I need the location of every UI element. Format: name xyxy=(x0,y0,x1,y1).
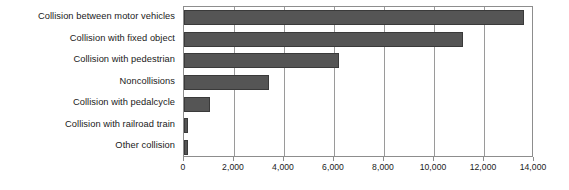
bar-row xyxy=(184,50,532,72)
bar-row xyxy=(184,136,532,158)
bar-row xyxy=(184,7,532,29)
x-tick-label: 0 xyxy=(181,162,186,172)
plot-area xyxy=(183,6,533,157)
category-label: Collision with railroad train xyxy=(65,114,175,136)
bar xyxy=(184,140,188,155)
bar-row xyxy=(184,72,532,94)
category-label: Collision between motor vehicles xyxy=(38,6,175,28)
x-axis: 02,0004,0006,0008,00010,00012,00014,000 xyxy=(183,157,533,187)
bar xyxy=(184,10,524,25)
x-tick-mark xyxy=(333,157,334,161)
x-tick-mark xyxy=(183,157,184,161)
x-tick-mark xyxy=(283,157,284,161)
x-tick-label: 12,000 xyxy=(470,162,497,172)
x-tick-label: 4,000 xyxy=(272,162,294,172)
category-label: Collision with fixed object xyxy=(70,28,175,50)
category-label: Noncollisions xyxy=(120,71,175,93)
bar xyxy=(184,118,188,133)
x-tick-mark xyxy=(383,157,384,161)
x-tick-mark xyxy=(483,157,484,161)
x-tick-label: 2,000 xyxy=(222,162,244,172)
category-label: Collision with pedestrian xyxy=(74,49,176,71)
bar-row xyxy=(184,29,532,51)
x-tick-label: 6,000 xyxy=(322,162,344,172)
bar xyxy=(184,75,269,90)
category-label: Collision with pedalcycle xyxy=(73,92,175,114)
bar-chart: Collision between motor vehiclesCollisio… xyxy=(0,0,569,190)
category-axis-labels: Collision between motor vehiclesCollisio… xyxy=(0,6,180,157)
bar-row xyxy=(184,115,532,137)
category-label: Other collision xyxy=(115,135,175,157)
x-tick-mark xyxy=(233,157,234,161)
x-tick-mark xyxy=(433,157,434,161)
x-tick-label: 10,000 xyxy=(420,162,447,172)
bar xyxy=(184,53,339,68)
bar xyxy=(184,32,463,47)
x-tick-label: 14,000 xyxy=(520,162,547,172)
x-tick-label: 8,000 xyxy=(372,162,394,172)
bars-layer xyxy=(184,7,532,156)
bar xyxy=(184,97,210,112)
bar-row xyxy=(184,93,532,115)
x-tick-mark xyxy=(533,157,534,161)
